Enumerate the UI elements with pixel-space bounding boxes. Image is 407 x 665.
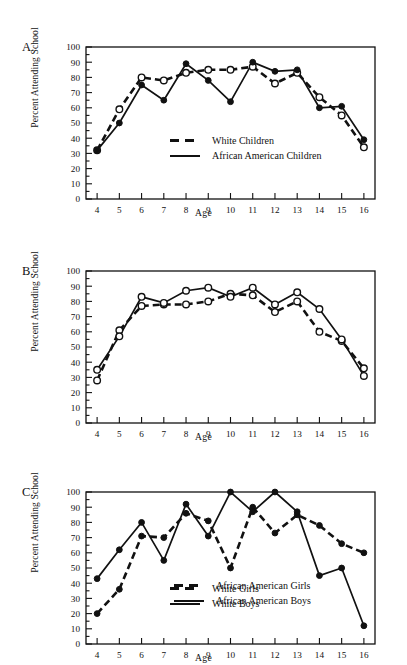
data-point-open bbox=[361, 365, 368, 372]
y-tick-label: 90 bbox=[71, 282, 81, 292]
x-tick-label: 16 bbox=[359, 429, 369, 439]
data-point-filled bbox=[116, 586, 122, 592]
panel-c-legend: African American GirlsAfrican American B… bbox=[172, 578, 311, 608]
x-tick-label: 10 bbox=[226, 650, 236, 660]
x-tick-label: 5 bbox=[117, 205, 122, 215]
x-tick-label: 6 bbox=[139, 205, 144, 215]
data-point-open bbox=[227, 67, 234, 74]
x-tick-label: 13 bbox=[293, 429, 303, 439]
panel-b-plot: 0102030405060708090100456789101112131415… bbox=[0, 224, 407, 446]
x-tick-label: 4 bbox=[95, 205, 100, 215]
y-tick-label: 100 bbox=[66, 487, 80, 497]
y-tick-label: 40 bbox=[71, 134, 81, 144]
legend-label: African American Boys bbox=[216, 594, 311, 608]
data-point-open bbox=[249, 292, 256, 299]
x-tick-label: 12 bbox=[270, 650, 280, 660]
x-tick-label: 12 bbox=[270, 205, 280, 215]
data-point-filled bbox=[361, 137, 367, 143]
data-point-open bbox=[316, 94, 323, 101]
data-point-filled bbox=[94, 147, 100, 153]
data-point-filled bbox=[183, 510, 189, 516]
y-tick-label: 20 bbox=[71, 388, 81, 398]
data-point-filled bbox=[317, 573, 323, 579]
data-point-filled bbox=[228, 99, 234, 105]
panel-c-plot: 0102030405060708090100456789101112131415… bbox=[0, 445, 407, 665]
panel-b: B. Percent Attending School Age 01020304… bbox=[0, 224, 407, 446]
x-tick-label: 13 bbox=[293, 205, 303, 215]
data-point-open bbox=[294, 289, 301, 296]
x-tick-label: 14 bbox=[315, 650, 325, 660]
x-tick-label: 4 bbox=[95, 650, 100, 660]
solid-line-swatch-icon bbox=[168, 151, 202, 161]
data-point-filled bbox=[361, 623, 367, 629]
legend-item: White Children bbox=[168, 133, 321, 148]
x-tick-label: 11 bbox=[248, 429, 257, 439]
x-tick-label: 15 bbox=[337, 205, 347, 215]
x-tick-label: 9 bbox=[206, 205, 211, 215]
data-point-filled bbox=[183, 61, 189, 67]
y-tick-label: 50 bbox=[71, 563, 81, 573]
series-line bbox=[97, 294, 364, 381]
data-point-open bbox=[294, 298, 301, 305]
y-tick-label: 0 bbox=[75, 418, 80, 428]
data-point-filled bbox=[294, 509, 300, 515]
data-point-open bbox=[183, 287, 190, 294]
data-point-filled bbox=[272, 489, 278, 495]
x-tick-label: 14 bbox=[315, 429, 325, 439]
data-point-filled bbox=[250, 59, 256, 65]
y-tick-label: 40 bbox=[71, 579, 81, 589]
data-point-filled bbox=[317, 523, 323, 529]
y-tick-label: 30 bbox=[71, 594, 81, 604]
data-point-open bbox=[316, 329, 323, 336]
data-point-filled bbox=[339, 565, 345, 571]
data-point-filled bbox=[205, 533, 211, 539]
data-point-open bbox=[205, 67, 212, 74]
legend-item: African American Boys bbox=[172, 593, 311, 608]
data-point-open bbox=[94, 367, 101, 374]
x-tick-label: 14 bbox=[315, 205, 325, 215]
y-tick-label: 60 bbox=[71, 548, 81, 558]
data-point-open bbox=[316, 306, 323, 313]
data-point-open bbox=[361, 144, 368, 151]
data-point-filled bbox=[139, 82, 145, 88]
dashed-line-swatch-icon bbox=[172, 581, 206, 591]
x-tick-label: 11 bbox=[248, 205, 257, 215]
y-tick-label: 30 bbox=[71, 373, 81, 383]
x-tick-label: 16 bbox=[359, 650, 369, 660]
x-tick-label: 5 bbox=[117, 429, 122, 439]
data-point-open bbox=[138, 74, 145, 81]
data-point-open bbox=[116, 333, 123, 340]
x-tick-label: 4 bbox=[95, 429, 100, 439]
data-point-open bbox=[205, 284, 212, 291]
legend-label: African American Children bbox=[212, 149, 321, 163]
x-tick-label: 10 bbox=[226, 429, 236, 439]
y-tick-label: 50 bbox=[71, 118, 81, 128]
legend-label: African American Girls bbox=[216, 579, 310, 593]
y-tick-label: 10 bbox=[71, 179, 81, 189]
data-point-filled bbox=[183, 501, 189, 507]
y-tick-label: 70 bbox=[71, 312, 81, 322]
y-tick-label: 100 bbox=[66, 266, 80, 276]
y-tick-label: 0 bbox=[75, 639, 80, 649]
data-point-filled bbox=[294, 67, 300, 73]
data-point-open bbox=[338, 336, 345, 343]
data-point-filled bbox=[139, 533, 145, 539]
y-tick-label: 50 bbox=[71, 342, 81, 352]
x-tick-label: 15 bbox=[337, 429, 347, 439]
y-tick-label: 30 bbox=[71, 149, 81, 159]
data-point-filled bbox=[272, 530, 278, 536]
data-point-filled bbox=[205, 518, 211, 524]
x-tick-label: 9 bbox=[206, 429, 211, 439]
data-point-filled bbox=[116, 120, 122, 126]
data-point-open bbox=[205, 298, 212, 305]
data-point-open bbox=[183, 70, 190, 77]
series-line bbox=[97, 288, 364, 376]
y-tick-label: 60 bbox=[71, 103, 81, 113]
y-tick-label: 100 bbox=[66, 42, 80, 52]
x-tick-label: 8 bbox=[184, 650, 189, 660]
data-point-filled bbox=[116, 547, 122, 553]
data-point-open bbox=[227, 294, 234, 301]
data-point-open bbox=[94, 377, 101, 384]
y-tick-label: 80 bbox=[71, 73, 81, 83]
panel-c: C. Percent Attending School Age 01020304… bbox=[0, 445, 407, 665]
